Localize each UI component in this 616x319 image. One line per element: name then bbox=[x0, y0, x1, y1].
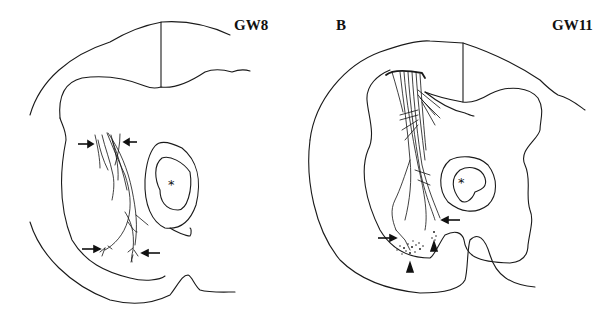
arrowhead-right bbox=[431, 242, 437, 251]
arrow-top-right bbox=[124, 139, 137, 145]
arrow-right-pointing-left bbox=[442, 217, 460, 223]
panel-gw11: * bbox=[300, 0, 616, 319]
arrow-top-left bbox=[78, 141, 93, 147]
panel-gw8: * GW8 bbox=[0, 0, 300, 319]
panel-letter-b: B bbox=[336, 17, 346, 34]
arrow-bottom-left bbox=[82, 246, 100, 252]
spinal-cord-section-gw11: * bbox=[300, 0, 616, 319]
fiber-bundle-gw8 bbox=[95, 133, 148, 262]
central-canal-marker: * bbox=[458, 175, 465, 190]
spinal-cord-section-gw8: * bbox=[0, 0, 300, 319]
arrow-bottom-right bbox=[142, 250, 160, 256]
stage-label-gw8: GW8 bbox=[234, 17, 268, 34]
central-canal-marker: * bbox=[168, 177, 175, 192]
stage-label-gw11: GW11 bbox=[552, 17, 593, 34]
arrowhead-bottom bbox=[407, 263, 413, 272]
